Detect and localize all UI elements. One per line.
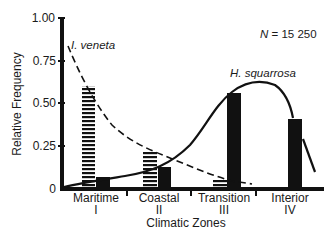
curve-i-veneta <box>68 46 252 184</box>
bar-veneta-maritime <box>82 86 95 188</box>
category-transition-roman: III <box>219 203 229 217</box>
y-tick-label: 0.25 <box>33 139 57 153</box>
bar-squarrosa-coastal <box>158 167 171 188</box>
relative-frequency-chart: 1.00 0.75 0.50 0.25 0 Relative Frequency… <box>0 0 335 234</box>
y-tick-label: 0 <box>49 182 56 196</box>
y-axis: 1.00 0.75 0.50 0.25 0 Relative Frequency <box>10 11 65 196</box>
sample-size-label: N = 15 250 <box>260 28 317 40</box>
bar-veneta-transition <box>213 179 227 188</box>
y-tick-label: 0.75 <box>33 54 57 68</box>
label-h-squarrosa: H. squarrosa <box>230 67 296 79</box>
series-h-squarrosa-bars <box>96 93 302 188</box>
x-axis-title: Climatic Zones <box>146 216 225 230</box>
label-i-veneta: I. veneta <box>71 39 115 51</box>
y-tick-label: 1.00 <box>32 11 56 25</box>
curve-h-squarrosa-tail <box>303 139 315 172</box>
category-maritime-roman: I <box>94 203 97 217</box>
n-value: = 15 250 <box>268 28 316 40</box>
y-axis-title: Relative Frequency <box>10 52 24 155</box>
category-coastal-roman: II <box>156 203 163 217</box>
bar-squarrosa-interior <box>288 119 302 188</box>
y-tick-label: 0.50 <box>33 96 57 110</box>
curve-h-squarrosa <box>64 82 293 187</box>
bar-squarrosa-transition <box>227 93 241 188</box>
series-i-veneta-bars <box>82 86 227 188</box>
category-interior-roman: IV <box>284 203 295 217</box>
